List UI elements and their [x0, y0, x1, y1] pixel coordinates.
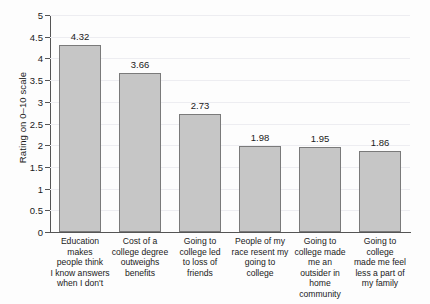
- y-axis-tick: [45, 15, 50, 16]
- category-label-line: Going to: [170, 236, 230, 247]
- x-axis-category-label: Going tocollege ledto loss offriends: [170, 236, 230, 278]
- category-label-line: benefits: [110, 268, 170, 279]
- category-label-line: Going to: [290, 236, 350, 247]
- category-label-line: made me feel: [350, 257, 410, 268]
- category-label-line: college made: [290, 247, 350, 258]
- gridline: [50, 167, 410, 168]
- x-axis-category-label: Going tocollege mademe anoutsider in hom…: [290, 236, 350, 300]
- category-label-line: race resent my: [230, 247, 290, 258]
- y-axis-tick: [45, 189, 50, 190]
- category-label-line: community: [290, 289, 350, 300]
- category-label-line: outweighs: [110, 257, 170, 268]
- category-label-line: people think: [50, 257, 110, 268]
- x-axis-category-label: People of myrace resent mygoing to colle…: [230, 236, 290, 278]
- category-label-line: Cost of a: [110, 236, 170, 247]
- bar-value-label: 1.98: [230, 132, 290, 143]
- gridline: [50, 15, 410, 16]
- category-label-line: friends: [170, 268, 230, 279]
- category-label-line: outsider in home: [290, 268, 350, 289]
- category-label-line: me an: [290, 257, 350, 268]
- y-axis-tick-label: 4.5: [1, 31, 43, 42]
- y-axis-tick-label: 2: [1, 140, 43, 151]
- y-axis-tick-label: 3: [1, 96, 43, 107]
- bar: [119, 73, 161, 232]
- bar-value-label: 4.32: [50, 31, 110, 42]
- y-axis-tick-label: 3.5: [1, 75, 43, 86]
- y-axis-tick-label: 1: [1, 183, 43, 194]
- y-axis-tick: [45, 232, 50, 233]
- y-axis-tick-label: 4: [1, 53, 43, 64]
- y-axis-tick-label: 5: [1, 10, 43, 21]
- category-label-line: People of my: [230, 236, 290, 247]
- y-axis-tick-label: 0.5: [1, 205, 43, 216]
- bar-chart: Rating on 0–10 scale 00.511.522.533.544.…: [0, 0, 430, 304]
- category-label-line: Going to college: [350, 236, 410, 257]
- category-label-line: Education makes: [50, 236, 110, 257]
- y-axis-tick: [45, 145, 50, 146]
- plot-area: 4.323.662.731.981.951.86: [50, 15, 410, 232]
- y-axis-tick: [45, 37, 50, 38]
- bar: [239, 146, 281, 232]
- gridline: [50, 80, 410, 81]
- bar: [59, 45, 101, 232]
- x-axis-line: [50, 232, 411, 233]
- bar-value-label: 1.95: [290, 133, 350, 144]
- y-axis-tick: [45, 102, 50, 103]
- x-axis-category-label: Education makespeople thinkI know answer…: [50, 236, 110, 289]
- y-axis-tick-label: 1.5: [1, 161, 43, 172]
- x-axis-category-label: Going to collegemade me feelless a part …: [350, 236, 410, 289]
- category-label-line: less a part of: [350, 268, 410, 279]
- gridline: [50, 58, 410, 59]
- x-axis-category-label: Cost of acollege degreeoutweighsbenefits: [110, 236, 170, 278]
- gridline: [50, 210, 410, 211]
- category-label-line: my family: [350, 278, 410, 289]
- category-label-line: going to college: [230, 257, 290, 278]
- category-label-line: college degree: [110, 247, 170, 258]
- gridline: [50, 102, 410, 103]
- y-axis-tick: [45, 124, 50, 125]
- bar: [359, 151, 401, 232]
- category-label-line: when I don't: [50, 278, 110, 289]
- gridline: [50, 189, 410, 190]
- bar-value-label: 2.73: [170, 100, 230, 111]
- y-axis-tick: [45, 58, 50, 59]
- y-axis-tick-label: 0: [1, 227, 43, 238]
- bar: [179, 114, 221, 232]
- category-label-line: I know answers: [50, 268, 110, 279]
- category-label-line: to loss of: [170, 257, 230, 268]
- y-axis-tick-label: 2.5: [1, 118, 43, 129]
- gridline: [50, 124, 410, 125]
- y-axis-tick: [45, 167, 50, 168]
- y-axis-tick: [45, 210, 50, 211]
- bar: [299, 147, 341, 232]
- bar-value-label: 3.66: [110, 59, 170, 70]
- y-axis-tick: [45, 80, 50, 81]
- bar-value-label: 1.86: [350, 137, 410, 148]
- category-label-line: college led: [170, 247, 230, 258]
